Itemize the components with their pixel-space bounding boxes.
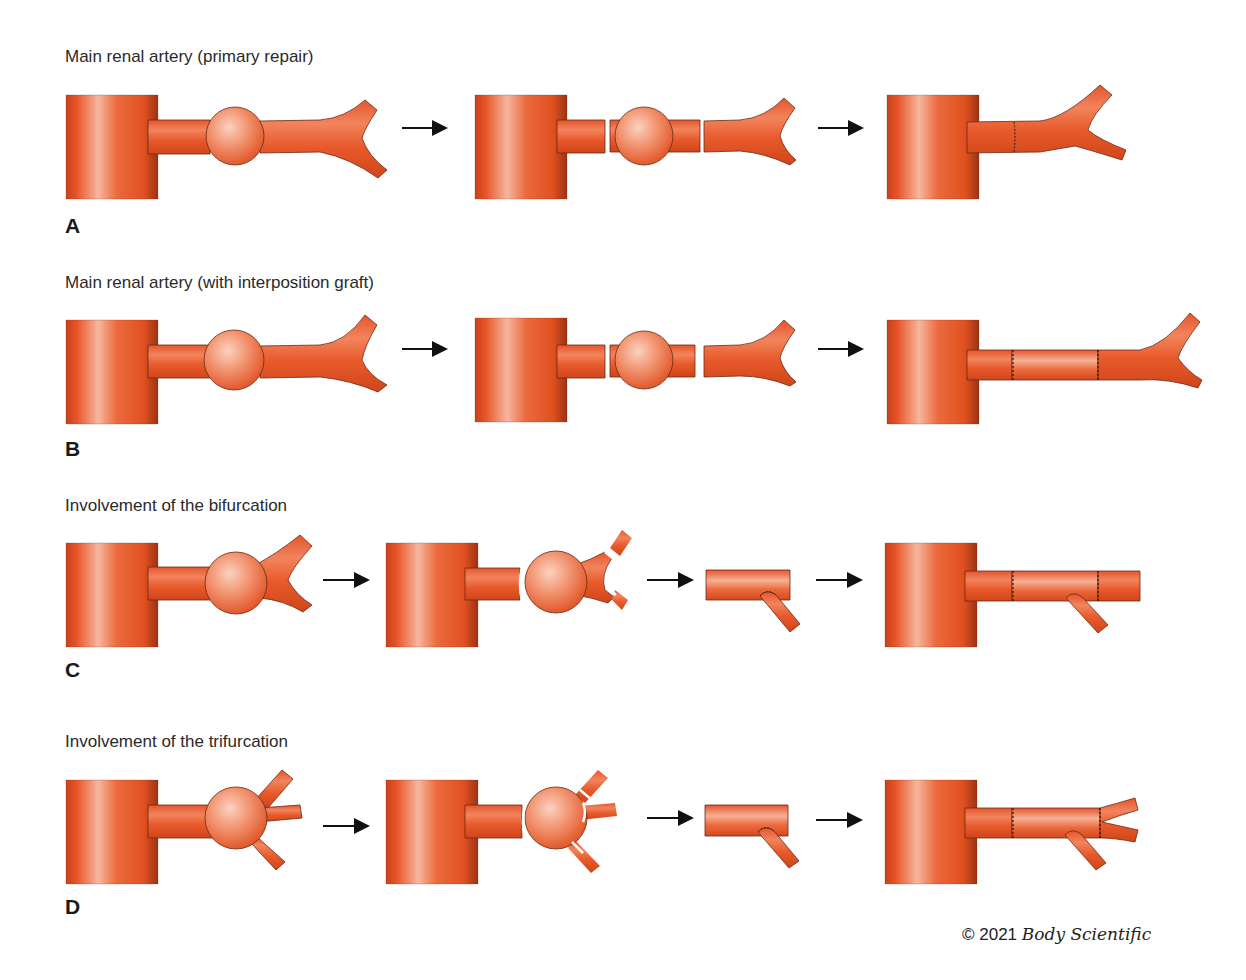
- row-a-step-2-excision: [475, 95, 796, 199]
- copyright-year: © 2021: [962, 925, 1017, 944]
- brand-logo-text: Body Scientific: [1022, 924, 1151, 944]
- renal-artery-repair-diagram: [0, 0, 1246, 980]
- row-c-step-3-branch-reimplantation: [706, 570, 800, 632]
- row-a-step-3-anastomosis: [887, 85, 1126, 199]
- row-b-step-3-interposition-graft: [887, 313, 1202, 424]
- row-c-step-1-aneurysm: [66, 535, 312, 647]
- row-a-step-1-aneurysm: [66, 95, 387, 199]
- row-c-step-4-graft-anastomosed: [885, 543, 1140, 647]
- row-b-step-1-aneurysm: [66, 315, 387, 424]
- row-b-step-2-excision: [475, 318, 796, 422]
- row-d-step-3-branch-reimplantation: [705, 805, 799, 868]
- row-d-step-1-aneurysm: [66, 770, 302, 884]
- row-d-step-4-graft-anastomosed: [885, 780, 1138, 884]
- row-c-step-2-excision: [386, 530, 632, 647]
- row-d-step-2-excision: [386, 770, 617, 884]
- copyright-notice: © 2021 Body Scientific: [962, 924, 1151, 945]
